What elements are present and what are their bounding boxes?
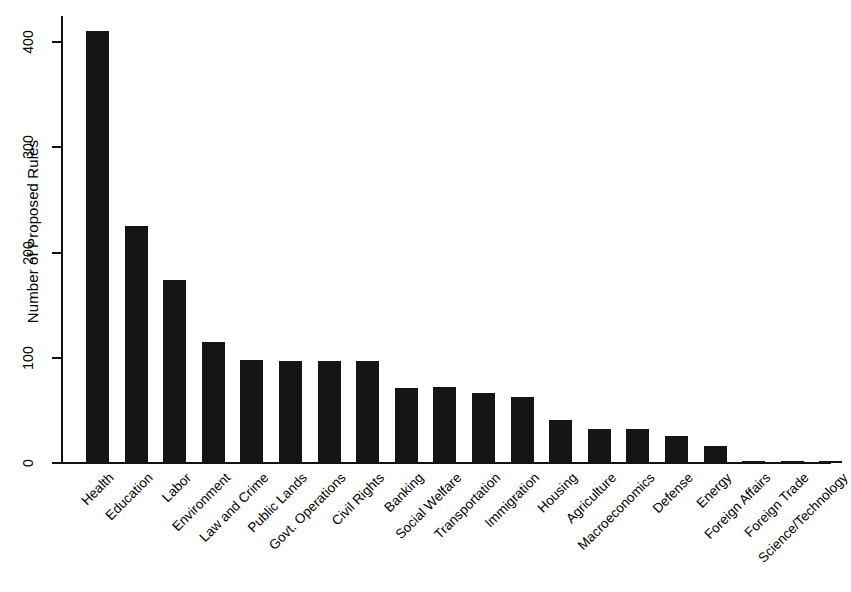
x-axis-tick-label-text: Law and Crime [197, 470, 272, 545]
bar [819, 461, 842, 463]
y-axis-tick-label: 200 [20, 231, 36, 275]
bar [125, 226, 148, 463]
bar [549, 420, 572, 463]
x-axis-tick-label-text: Labor [159, 470, 194, 505]
x-axis-tick-label-text: Environment [169, 470, 233, 534]
bar [742, 461, 765, 463]
y-axis-tick-label: 0 [20, 441, 36, 485]
x-axis-tick-label-text: Agriculture [563, 470, 619, 526]
x-axis-tick-label-text: Civil Rights [329, 470, 387, 528]
y-axis-tick [52, 462, 62, 464]
bar [86, 31, 109, 463]
bar [318, 361, 341, 463]
x-axis-tick-label-text: Foreign Trade [742, 470, 812, 540]
bar [781, 461, 804, 463]
bar [626, 429, 649, 463]
bar [433, 387, 456, 463]
bar [395, 388, 418, 463]
x-axis-tick-label-text: Banking [381, 470, 426, 515]
bar [356, 361, 379, 463]
x-axis-tick-label-text: Housing [535, 470, 581, 516]
y-axis-tick [52, 357, 62, 359]
bar [163, 280, 186, 463]
bar [704, 446, 727, 463]
x-axis-tick-label-text: Transportation [431, 470, 503, 542]
bar [588, 429, 611, 463]
y-axis-tick-label: 400 [20, 20, 36, 64]
x-axis-tick-label-text: Education [103, 470, 156, 523]
x-axis-tick-label-text: Foreign Affairs [701, 470, 773, 542]
bar [202, 342, 225, 463]
bar [665, 436, 688, 463]
y-axis-tick-label: 100 [20, 336, 36, 380]
x-axis-tick-label-text: Immigration [481, 470, 541, 530]
x-axis-tick-label-text: Macroeconomics [575, 470, 658, 553]
x-axis-tick-label-text: Defense [650, 470, 696, 516]
y-axis-tick [52, 41, 62, 43]
x-axis-tick-label-text: Govt. Operations [266, 470, 349, 553]
x-axis-tick-label-text: Health [79, 470, 117, 508]
bar [240, 360, 263, 463]
x-axis-tick-label-text: Social Welfare [393, 470, 465, 542]
x-axis-tick-label-text: Energy [694, 470, 735, 511]
x-axis-tick-label-text: Public Lands [245, 470, 310, 535]
y-axis-tick-label: 300 [20, 125, 36, 169]
bar [511, 397, 534, 463]
bar [279, 361, 302, 463]
x-axis-tick-label-text: Science/Technology [755, 470, 851, 566]
y-axis-tick [52, 146, 62, 148]
plot-area [63, 16, 831, 463]
bar [472, 393, 495, 463]
y-axis-tick [52, 252, 62, 254]
